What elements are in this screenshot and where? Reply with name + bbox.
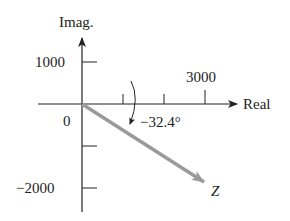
angle-arc xyxy=(130,81,135,124)
angle-label: −32.4° xyxy=(140,114,181,130)
real-axis-label: Real xyxy=(243,96,271,112)
phasor-diagram: Imag. Real 1000 0 −2000 3000 −32.4° Z xyxy=(0,0,290,221)
real-tick-label-3000: 3000 xyxy=(186,69,216,85)
imag-tick-label-neg2000: −2000 xyxy=(16,180,54,196)
imag-axis-label: Imag. xyxy=(59,14,94,30)
vector-z-label: Z xyxy=(211,183,220,199)
imag-tick-label-1000: 1000 xyxy=(35,54,65,70)
origin-label: 0 xyxy=(63,113,71,129)
